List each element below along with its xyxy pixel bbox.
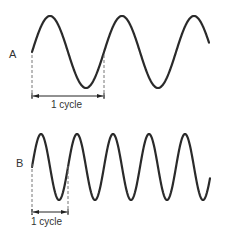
wave-a-curve bbox=[32, 16, 209, 88]
wave-b-curve bbox=[32, 134, 210, 200]
wave-b-label: B bbox=[16, 157, 23, 169]
wave-diagram bbox=[0, 0, 225, 242]
wave-a-cycle-label: 1 cycle bbox=[51, 99, 82, 110]
wave-b-cycle-dimension-arrow bbox=[32, 209, 68, 215]
wave-b-cycle-label: 1 cycle bbox=[31, 216, 62, 227]
wave-a-label: A bbox=[9, 48, 16, 60]
